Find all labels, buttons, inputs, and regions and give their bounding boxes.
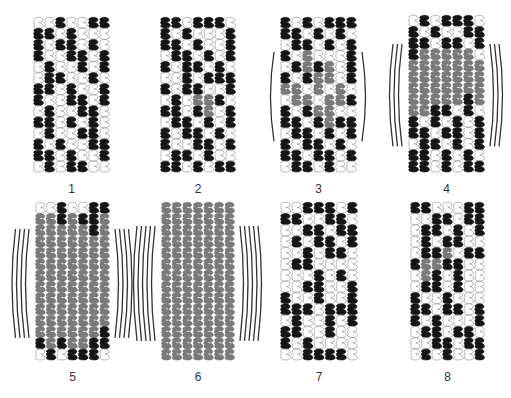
subunit-black — [161, 62, 171, 73]
subunit-white — [45, 39, 55, 50]
subunit-gray — [475, 71, 485, 82]
subunit-gray — [292, 95, 302, 106]
subunit-white — [172, 62, 182, 73]
subunit-white — [281, 259, 291, 270]
subunit-gray — [183, 293, 192, 304]
subunit-black — [336, 225, 346, 236]
subunit-black — [336, 270, 346, 281]
subunit-gray — [172, 270, 181, 281]
subunit-black — [336, 247, 346, 258]
subunit-white — [454, 315, 464, 326]
subunit-gray — [214, 293, 223, 304]
subunit-white — [314, 17, 324, 28]
subunit-black — [442, 150, 452, 161]
subunit-black — [45, 150, 55, 161]
panel-8 — [410, 202, 485, 360]
subunit-gray — [214, 214, 223, 225]
subunit-white — [431, 161, 441, 172]
vibration-arcs-left-6 — [125, 225, 156, 346]
subunit-gray — [46, 315, 56, 326]
subunit-white — [432, 349, 442, 360]
subunit-gray — [183, 225, 192, 236]
subunit-black — [292, 161, 302, 172]
subunit-white — [347, 84, 357, 95]
subunit-white — [348, 214, 358, 225]
subunit-white — [411, 349, 421, 360]
subunit-gray — [409, 83, 419, 94]
subunit-white — [56, 84, 66, 95]
subunit-gray — [36, 270, 46, 281]
subunit-black — [78, 95, 88, 106]
subunit-black — [325, 236, 335, 247]
subunit-black — [475, 127, 485, 138]
subunit-gray — [162, 349, 171, 360]
subunit-white — [454, 247, 464, 258]
subunit-white — [464, 293, 474, 304]
subunit-black — [89, 117, 99, 128]
panel-5 — [35, 202, 110, 360]
subunit-black — [215, 73, 225, 84]
subunit-white — [432, 304, 442, 315]
subunit-white — [432, 293, 442, 304]
subunit-gray — [79, 270, 89, 281]
subunit-white — [56, 106, 66, 117]
subunit-gray — [225, 293, 234, 304]
subunit-black — [281, 304, 291, 315]
subunit-white — [215, 117, 225, 128]
panel-label-1: 1 — [62, 182, 82, 196]
subunit-white — [336, 62, 346, 73]
subunit-black — [409, 127, 419, 138]
subunit-black — [89, 225, 99, 236]
subunit-white — [348, 326, 358, 337]
subunit-black — [303, 128, 313, 139]
subunit-white — [100, 161, 110, 172]
subunit-black — [281, 214, 291, 225]
subunit-black — [67, 84, 77, 95]
subunit-white — [325, 28, 335, 39]
subunit-black — [325, 315, 335, 326]
subunit-white — [36, 202, 46, 213]
subunit-black — [193, 128, 203, 139]
subunit-black — [421, 236, 431, 247]
subunit-white — [314, 39, 324, 50]
subunit-black — [226, 28, 236, 39]
subunit-black — [347, 73, 357, 84]
subunit-black — [215, 95, 225, 106]
subunit-gray — [453, 71, 463, 82]
subunit-black — [34, 39, 44, 50]
subunit-black — [45, 28, 55, 39]
vibration-arcs-left-5 — [4, 228, 30, 343]
subunit-gray — [183, 338, 192, 349]
subunit-white — [464, 139, 474, 150]
subunit-white — [281, 315, 291, 326]
subunit-black — [347, 17, 357, 28]
subunit-black — [56, 73, 66, 84]
subunit-black — [314, 270, 324, 281]
subunit-white — [204, 28, 214, 39]
subunit-white — [411, 338, 421, 349]
subunit-white — [303, 28, 313, 39]
subunit-black — [453, 38, 463, 49]
subunit-white — [409, 139, 419, 150]
subunit-black — [348, 202, 358, 213]
subunit-gray — [193, 326, 202, 337]
subunit-gray — [464, 83, 474, 94]
subunit-white — [464, 116, 474, 127]
subunit-white — [454, 293, 464, 304]
subunit-black — [454, 259, 464, 270]
subunit-gray — [46, 225, 56, 236]
subunit-black — [281, 117, 291, 128]
subunit-white — [314, 214, 324, 225]
subunit-white — [464, 127, 474, 138]
subunit-white — [314, 315, 324, 326]
subunit-black — [281, 326, 291, 337]
subunit-gray — [162, 304, 171, 315]
subunit-gray — [464, 60, 474, 71]
subunit-black — [182, 128, 192, 139]
subunit-gray — [183, 281, 192, 292]
subunit-black — [314, 28, 324, 39]
subunit-gray — [204, 225, 213, 236]
subunit-black — [89, 202, 99, 213]
subunit-black — [347, 39, 357, 50]
panel-label-3: 3 — [309, 182, 329, 196]
